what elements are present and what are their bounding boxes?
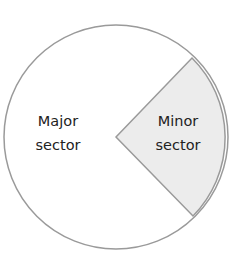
major-sector-label-line1: Major <box>38 113 78 129</box>
minor-sector-label-line2: sector <box>156 137 201 153</box>
minor-sector-label-line1: Minor <box>158 113 199 129</box>
major-sector-label-line2: sector <box>36 137 81 153</box>
sector-diagram: Major sector Minor sector <box>0 0 245 254</box>
